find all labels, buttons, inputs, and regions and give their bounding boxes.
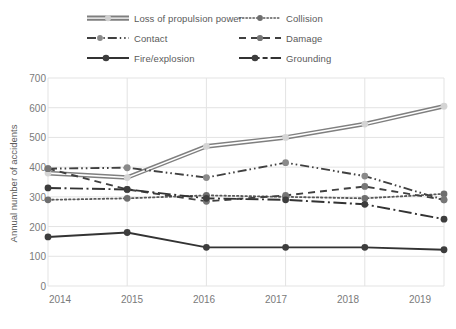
- data-point: [282, 134, 289, 141]
- series-grounding: [45, 185, 448, 223]
- legend-swatch-dotted-icon: [238, 12, 282, 24]
- data-point: [45, 165, 52, 172]
- legend-swatch-double-solid-icon: [86, 12, 130, 24]
- x-tick: 2018: [337, 294, 359, 305]
- data-point: [361, 121, 368, 128]
- data-point: [441, 196, 448, 203]
- legend-label: Damage: [286, 33, 323, 44]
- data-point: [282, 244, 289, 251]
- data-point: [441, 246, 448, 253]
- data-point: [124, 229, 131, 236]
- series-fire-explosion: [45, 229, 448, 253]
- plot-area: Annual number of accidents 700 600 500 4…: [0, 70, 456, 329]
- legend-item-fire-explosion[interactable]: Fire/explosion: [86, 52, 238, 64]
- legend-label: Contact: [134, 33, 167, 44]
- series-layer: [45, 103, 448, 253]
- legend-label: Loss of propulsion power: [134, 13, 242, 24]
- data-point: [203, 195, 210, 202]
- data-point: [124, 195, 131, 202]
- x-tick: 2017: [265, 294, 287, 305]
- legend-label: Fire/explosion: [134, 53, 195, 64]
- x-tick: 2015: [121, 294, 143, 305]
- data-point: [282, 196, 289, 203]
- data-point: [441, 103, 448, 110]
- legend-label: Grounding: [286, 53, 331, 64]
- legend-swatch-solid-icon: [86, 52, 130, 64]
- data-point: [45, 196, 52, 203]
- data-point: [45, 234, 52, 241]
- data-point: [361, 201, 368, 208]
- legend-label: Collision: [286, 13, 323, 24]
- data-point: [361, 173, 368, 180]
- legend-item-loss-of-propulsion-power[interactable]: Loss of propulsion power: [86, 12, 238, 24]
- legend-swatch-dash-dot-icon: [238, 52, 282, 64]
- data-point: [282, 159, 289, 166]
- data-point: [124, 174, 131, 181]
- data-point: [361, 195, 368, 202]
- line-chart: Loss of propulsion power Collision Conta…: [0, 0, 456, 329]
- legend-item-damage[interactable]: Damage: [238, 32, 398, 44]
- data-point: [441, 216, 448, 223]
- chart-canvas: [0, 70, 456, 302]
- data-point: [124, 164, 131, 171]
- data-point: [45, 185, 52, 192]
- legend-swatch-dashed-icon: [238, 32, 282, 44]
- legend-item-grounding[interactable]: Grounding: [238, 52, 398, 64]
- data-point: [361, 244, 368, 251]
- data-point: [203, 244, 210, 251]
- data-point: [203, 174, 210, 181]
- chart-legend: Loss of propulsion power Collision Conta…: [86, 8, 416, 68]
- legend-item-collision[interactable]: Collision: [238, 12, 398, 24]
- x-tick: 2016: [193, 294, 215, 305]
- x-tick: 2014: [49, 294, 71, 305]
- legend-swatch-dash-dot-dot-icon: [86, 32, 130, 44]
- x-tick: 2019: [409, 294, 431, 305]
- data-point: [124, 186, 131, 193]
- data-point: [441, 190, 448, 197]
- data-point: [203, 143, 210, 150]
- legend-item-contact[interactable]: Contact: [86, 32, 238, 44]
- data-point: [361, 183, 368, 190]
